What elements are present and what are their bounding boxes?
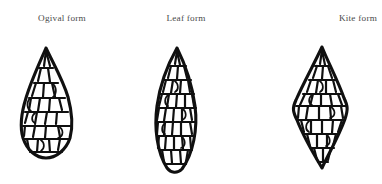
panel-kite-form: Kite form	[248, 0, 372, 184]
panel-leaf-form: Leaf form	[124, 0, 248, 184]
leaf-biface-icon	[124, 40, 248, 180]
ogival-biface-icon	[0, 40, 124, 180]
panel-label-kite: Kite form	[248, 12, 382, 24]
panel-ogival-form: Ogival form	[0, 0, 124, 184]
kite-biface-icon	[248, 40, 372, 180]
